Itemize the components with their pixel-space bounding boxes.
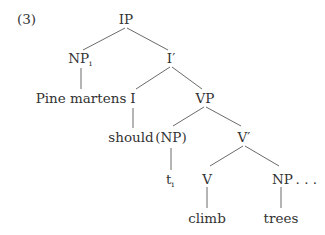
- edge-vp-vbar: [206, 107, 241, 126]
- node-np-object: NP . . .: [272, 171, 317, 187]
- node-np-subject-label: NP: [68, 50, 89, 66]
- edge-vbar-np-object: [245, 146, 279, 166]
- node-should: should: [108, 129, 154, 145]
- node-i-bar: I′: [167, 50, 175, 66]
- node-trace: ti: [166, 171, 174, 189]
- node-i: I: [130, 90, 135, 106]
- syntax-tree-diagram: (3) IP NPi I′ Pine martens I VP should (…: [0, 0, 325, 235]
- node-np-object-label: NP: [272, 171, 293, 187]
- node-vp: VP: [195, 90, 215, 106]
- node-ip: IP: [119, 11, 133, 27]
- node-np-trace-parent: (NP): [155, 129, 186, 145]
- node-v-bar: V′: [237, 129, 251, 145]
- edge-ibar-vp: [172, 67, 202, 89]
- node-climb: climb: [188, 210, 226, 226]
- edge-ip-ibar: [127, 28, 168, 50]
- node-trees: trees: [264, 210, 299, 226]
- index-subscript: i: [89, 59, 92, 68]
- node-np-subject: NPi: [68, 50, 92, 68]
- node-v: V: [201, 171, 212, 187]
- edge-ibar-i: [136, 67, 170, 89]
- edge-vp-np-trace: [173, 107, 204, 126]
- example-number: (3): [17, 11, 36, 27]
- ellipsis: . . .: [293, 171, 317, 187]
- tree-edges: [81, 28, 281, 208]
- edge-ip-np: [83, 28, 125, 50]
- edge-vbar-v: [210, 146, 243, 166]
- trace-index-subscript: i: [171, 180, 174, 189]
- node-pine-martens: Pine martens: [36, 90, 127, 106]
